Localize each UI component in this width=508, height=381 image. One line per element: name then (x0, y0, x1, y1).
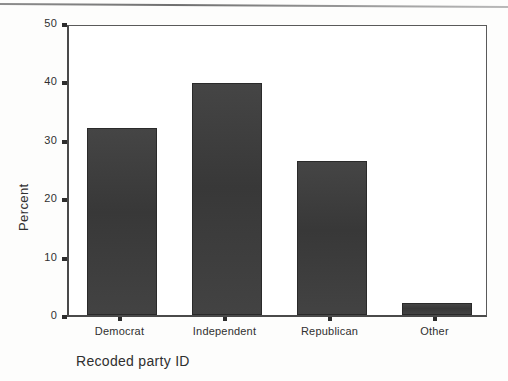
x-axis-tick-mark (328, 317, 332, 321)
y-axis-tick-label: 0 (51, 309, 57, 321)
x-axis-tick-mark (223, 317, 227, 321)
scanned-figure: Percent 01020304050 DemocratIndependentR… (0, 0, 508, 381)
y-axis-tick-label: 10 (44, 251, 57, 263)
page-rule (0, 3, 508, 8)
x-axis-tick-mark (433, 317, 437, 321)
bar-democrat (87, 128, 157, 315)
x-axis-tick-label: Democrat (95, 325, 144, 337)
y-axis-tick-label: 50 (44, 17, 57, 29)
plot-area (67, 25, 487, 317)
bars-layer (69, 26, 486, 315)
x-axis-tick-label: Other (420, 325, 449, 337)
x-axis: DemocratIndependentRepublicanOther (67, 317, 487, 357)
y-axis-tick-label: 40 (44, 75, 57, 87)
x-axis-title: Recoded party ID (76, 353, 190, 369)
x-axis-tick-mark (118, 317, 122, 321)
y-axis-tick-label: 30 (44, 134, 57, 146)
bar-independent (192, 83, 262, 315)
y-axis-title: Percent (16, 183, 31, 231)
x-axis-tick-label: Republican (301, 325, 358, 337)
y-axis: Percent 01020304050 (0, 0, 67, 381)
bar-republican (297, 161, 367, 315)
x-axis-tick-label: Independent (193, 325, 256, 337)
y-axis-tick-label: 20 (44, 192, 57, 204)
bar-other (402, 303, 472, 315)
